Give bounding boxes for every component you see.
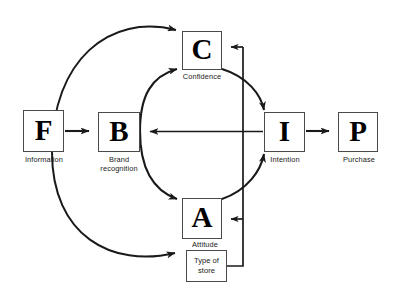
caption-brand-recognition: Brand recognition <box>96 155 142 173</box>
node-box-information[interactable]: F <box>23 110 64 152</box>
node-letter-c: C <box>192 35 213 64</box>
caption-confidence: Confidence <box>172 72 232 81</box>
node-letter-b: B <box>109 117 128 146</box>
node-box-attitude[interactable]: A <box>182 198 222 239</box>
node-letter-a: A <box>192 203 213 232</box>
diagram-canvas: F B C A I P Type of store Information Br… <box>0 0 394 297</box>
caption-intention: Intention <box>258 155 312 164</box>
node-box-purchase[interactable]: P <box>338 112 378 152</box>
aux-box-type-of-store[interactable]: Type of store <box>186 250 227 282</box>
node-box-intention[interactable]: I <box>264 112 305 152</box>
edge-brand-to-attitude <box>140 131 177 199</box>
caption-information: Information <box>5 155 83 164</box>
node-letter-i: I <box>279 117 290 146</box>
caption-attitude: Attitude <box>182 240 228 249</box>
node-box-brand-recognition[interactable]: B <box>98 112 140 152</box>
node-box-confidence[interactable]: C <box>182 31 222 70</box>
caption-purchase: Purchase <box>332 155 386 164</box>
node-letter-f: F <box>35 116 53 145</box>
node-letter-p: P <box>349 117 367 146</box>
